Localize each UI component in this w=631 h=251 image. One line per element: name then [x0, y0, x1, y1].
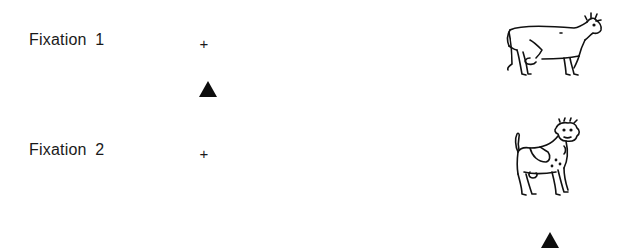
fixation-figure: Fixation 1 + [0, 0, 631, 251]
fixation-cross-2: + [197, 146, 211, 161]
fixation-1-label: Fixation 1 [29, 31, 104, 49]
triangle-marker-icon [199, 81, 217, 97]
triangle-marker-icon [541, 232, 559, 248]
cow-side-view-icon [490, 8, 606, 82]
cow-three-quarter-view-icon [500, 116, 586, 204]
fixation-cross-1: + [197, 36, 211, 51]
fixation-2-label: Fixation 2 [29, 141, 104, 159]
